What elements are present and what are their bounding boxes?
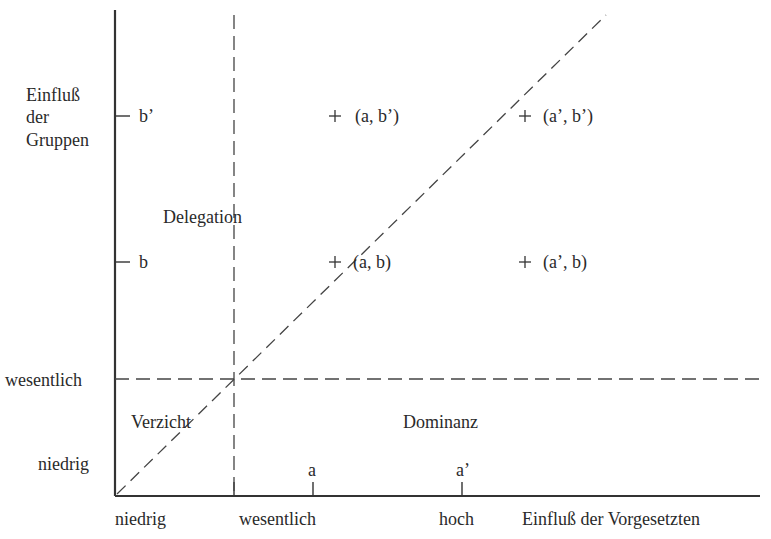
y-level-niedrig: niedrig: [38, 455, 89, 473]
x-level-wesentlich: wesentlich: [239, 510, 316, 528]
y-axis-title-line-3: Gruppen: [26, 131, 89, 149]
x-axis-title: Einfluß der Vorgesetzten: [522, 510, 700, 528]
region-delegation: Delegation: [163, 208, 242, 226]
point-label-a-b-prime: (a, b’): [355, 107, 399, 125]
point-label-a-prime-b: (a’, b): [543, 253, 587, 271]
y-tick-label-b-prime: b’: [139, 107, 154, 125]
y-level-wesentlich: wesentlich: [5, 371, 82, 389]
point-label-a-prime-b-prime: (a’, b’): [543, 107, 593, 125]
plus-marker-a-prime-b: [519, 256, 531, 268]
region-verzicht: Verzicht: [131, 413, 191, 431]
y-axis-title-line-2: der: [26, 108, 49, 126]
plus-marker-a-b: [329, 256, 341, 268]
x-tick-label-a: a: [308, 461, 316, 479]
x-level-niedrig: niedrig: [115, 510, 166, 528]
region-dominanz: Dominanz: [403, 413, 478, 431]
x-level-hoch: hoch: [439, 510, 474, 528]
y-axis-title-line-1: Einfluß: [26, 86, 80, 104]
plus-marker-a-b-prime: [329, 110, 341, 122]
x-tick-label-a-prime: a’: [456, 461, 470, 479]
y-tick-label-b: b: [139, 253, 148, 271]
plus-marker-a-prime-b-prime: [519, 110, 531, 122]
point-label-a-b: (a, b): [353, 253, 391, 271]
